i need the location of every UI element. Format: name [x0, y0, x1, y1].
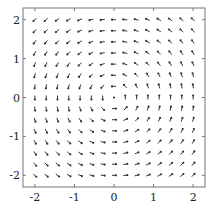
- arrow-head: [160, 139, 162, 141]
- arrow-head: [147, 106, 149, 108]
- arrow-head: [69, 175, 71, 177]
- arrow-head: [191, 61, 193, 63]
- arrow-head: [181, 94, 183, 96]
- arrow-head: [170, 117, 172, 119]
- arrow-head: [182, 150, 184, 152]
- arrow-head: [148, 140, 150, 142]
- arrow-head: [100, 30, 102, 32]
- arrow-head: [56, 87, 58, 89]
- arrow-head: [115, 152, 117, 154]
- arrow-head: [122, 29, 124, 31]
- arrow-head: [146, 83, 148, 85]
- arrow-head: [104, 141, 106, 143]
- arrow-head: [100, 64, 102, 66]
- arrow-head: [55, 53, 57, 55]
- arrow-head: [45, 87, 47, 89]
- arrow-head: [81, 153, 83, 155]
- arrow-head: [33, 87, 35, 89]
- arrow-head: [66, 31, 68, 33]
- arrow-head: [134, 62, 136, 64]
- arrow-head: [35, 154, 37, 156]
- arrow-head: [122, 51, 124, 53]
- arrow-head: [134, 51, 136, 53]
- arrow-head: [179, 28, 181, 30]
- arrow-head: [78, 87, 80, 89]
- arrow-head: [157, 61, 159, 63]
- arrow-head: [126, 118, 128, 120]
- arrow-head: [182, 173, 184, 175]
- arrow-head: [126, 174, 128, 176]
- arrow-head: [180, 83, 182, 85]
- arrow-head: [89, 53, 91, 55]
- arrow-head: [145, 51, 147, 53]
- arrow-head: [33, 42, 35, 44]
- arrow-head: [111, 30, 113, 32]
- arrow-head: [123, 84, 125, 86]
- arrow-head: [168, 50, 170, 52]
- x-tick-label: -1: [69, 191, 80, 204]
- arrow-head: [134, 73, 136, 75]
- arrow-head: [115, 119, 117, 121]
- arrow-head: [160, 162, 162, 164]
- arrow-head: [32, 20, 34, 22]
- arrow-head: [35, 165, 37, 167]
- arrow-head: [111, 85, 113, 87]
- arrow-head: [103, 130, 105, 132]
- arrow-head: [80, 131, 82, 133]
- arrow-head: [88, 30, 90, 32]
- arrow-head: [170, 128, 172, 130]
- arrow-head: [66, 20, 68, 22]
- arrow-head: [159, 128, 161, 130]
- arrow-head: [46, 154, 48, 156]
- arrow-head: [92, 131, 94, 133]
- arrow-head: [158, 83, 160, 85]
- arrow-head: [192, 106, 194, 108]
- arrow-head: [122, 73, 124, 75]
- arrow-head: [44, 65, 46, 67]
- arrow-head: [180, 50, 182, 52]
- arrow-head: [115, 174, 117, 176]
- arrow-head: [69, 153, 71, 155]
- arrow-head: [77, 53, 79, 55]
- arrow-head: [111, 41, 113, 43]
- arrow-head: [115, 163, 117, 165]
- arrow-head: [92, 153, 94, 155]
- arrow-head: [157, 51, 159, 53]
- arrow-head: [182, 139, 184, 141]
- arrow-head: [104, 175, 106, 177]
- arrow-head: [68, 109, 70, 111]
- x-tick-label: 2: [190, 191, 197, 204]
- arrow-head: [169, 72, 171, 74]
- arrow-head: [55, 65, 57, 67]
- arrow-head: [80, 109, 82, 111]
- arrow-head: [192, 83, 194, 85]
- arrow-head: [44, 31, 46, 33]
- arrow-head: [168, 28, 170, 30]
- arrow-head: [179, 39, 181, 41]
- arrow-head: [56, 98, 58, 100]
- arrow-head: [111, 74, 113, 76]
- arrow-head: [90, 98, 92, 100]
- arrow-head: [193, 150, 195, 152]
- arrow-head: [149, 151, 151, 153]
- arrow-head: [157, 40, 159, 42]
- arrow-head: [182, 162, 184, 164]
- arrow-head: [126, 163, 128, 165]
- arrow-head: [32, 31, 34, 33]
- arrow-head: [55, 20, 57, 22]
- arrow-head: [100, 41, 102, 43]
- arrow-head: [46, 132, 48, 134]
- y-axis: -2-1012: [9, 14, 205, 183]
- arrow-head: [33, 76, 35, 78]
- x-tick-label: -2: [30, 191, 41, 204]
- arrow-head: [58, 175, 60, 177]
- arrow-head: [171, 139, 173, 141]
- arrow-head: [124, 94, 126, 96]
- arrow-head: [46, 143, 48, 145]
- arrow-head: [66, 53, 68, 55]
- arrow-head: [159, 117, 161, 119]
- arrow-head: [69, 164, 71, 166]
- arrow-head: [147, 94, 149, 96]
- arrow-head: [159, 106, 161, 108]
- arrow-head: [137, 129, 139, 131]
